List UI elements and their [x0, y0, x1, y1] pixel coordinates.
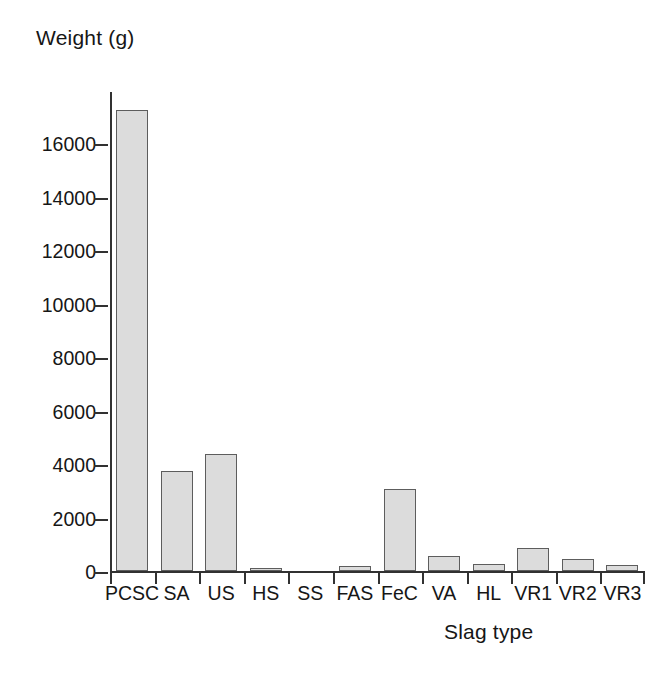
x-axis-title: Slag type	[444, 620, 533, 644]
x-axis-tick-label: FAS	[336, 583, 373, 604]
plot-area	[110, 92, 645, 573]
y-axis-tick-label: 16000	[42, 136, 96, 156]
y-axis-tick	[94, 251, 108, 253]
y-axis-tick-label: 10000	[42, 296, 96, 316]
bar	[250, 568, 282, 571]
y-axis-tick-labels: 0200040006000800010000120001400016000	[0, 92, 96, 573]
x-axis-tick-label: VR3	[603, 583, 641, 604]
bar	[606, 565, 638, 571]
y-axis-tick	[94, 412, 108, 414]
y-axis-tick	[94, 519, 108, 521]
bar	[428, 556, 460, 571]
bar	[116, 110, 148, 571]
y-axis-tick	[94, 198, 108, 200]
x-axis-tick-label: FeC	[381, 583, 418, 604]
x-axis-tick-label: SA	[164, 583, 190, 604]
bar	[205, 454, 237, 571]
x-axis-tick-label: HL	[476, 583, 501, 604]
y-axis-tick-label: 6000	[53, 403, 96, 423]
y-axis-tick-label: 8000	[53, 349, 96, 369]
x-axis-tick-label: VR2	[559, 583, 597, 604]
x-axis-tick-label: US	[208, 583, 235, 604]
y-axis-tick-label: 2000	[53, 510, 96, 530]
y-axis-tick	[94, 144, 108, 146]
bar	[339, 566, 371, 571]
y-axis-title: Weight (g)	[36, 26, 134, 50]
y-axis-tick-label: 12000	[42, 243, 96, 263]
bar	[161, 471, 193, 571]
x-axis-tick-labels: PCSCSAUSHSSSFASFeCVAHLVR1VR2VR3	[110, 583, 645, 611]
bar	[473, 564, 505, 571]
y-axis-tick	[94, 465, 108, 467]
y-axis-tick	[94, 358, 108, 360]
bar	[384, 489, 416, 571]
y-axis-tick	[94, 572, 108, 574]
x-axis-tick-label: VR1	[514, 583, 552, 604]
bar	[517, 548, 549, 571]
y-axis-tick	[94, 305, 108, 307]
x-axis-tick-label: PCSC	[105, 583, 159, 604]
bar-chart-figure: Weight (g) 02000400060008000100001200014…	[0, 0, 655, 689]
x-axis-tick-label: VA	[432, 583, 457, 604]
x-axis-tick-label: HS	[252, 583, 279, 604]
y-axis-tick-label: 14000	[42, 189, 96, 209]
bar	[562, 559, 594, 571]
y-axis-line	[110, 92, 112, 573]
y-axis-tick-label: 4000	[53, 456, 96, 476]
x-axis-tick-label: SS	[297, 583, 323, 604]
